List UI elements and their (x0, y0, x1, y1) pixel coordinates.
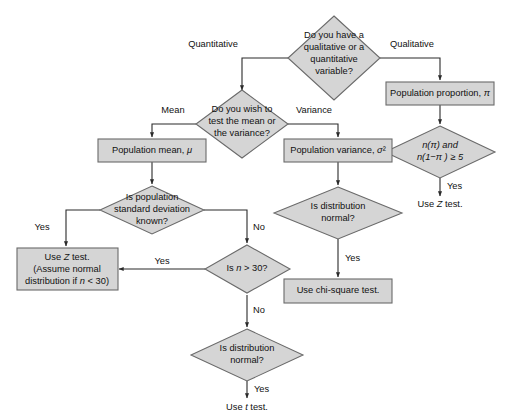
population-variance-label: Population variance, σ² (290, 145, 386, 155)
node-use-t-test[interactable]: Use t test. (226, 402, 268, 412)
dist-normal-variance-line-2: normal? (321, 213, 355, 223)
edge-start-to-proportion (380, 58, 440, 80)
edge-label-qualitative: Qualitative (390, 39, 434, 49)
start-decision-line-1: Do you have a (304, 30, 365, 40)
node-population-variance[interactable]: Population variance, σ² (284, 139, 392, 162)
node-sigma-known-decision[interactable]: Is population standard deviation known? (100, 186, 204, 234)
node-start-decision[interactable]: Do you have a qualitative or a quantitat… (288, 16, 380, 100)
node-distribution-normal-variance-decision[interactable]: Is distribution normal? (274, 187, 402, 239)
start-decision-line-3: quantitative (310, 54, 358, 64)
edge-label-quantitative: Quantitative (188, 39, 238, 49)
population-mean-label: Population mean, μ (112, 145, 192, 155)
edge-variance-branch (288, 124, 338, 137)
node-population-mean[interactable]: Population mean, μ (98, 139, 206, 162)
mean-variance-line-2: test the mean or (208, 116, 275, 126)
node-n-gt-30-decision[interactable]: Is n > 30? (205, 245, 290, 293)
use-z-test-proportion-label: Use Z test. (418, 199, 463, 209)
population-proportion-label: Population proportion, π (390, 88, 491, 98)
sigma-known-line-2: standard deviation (114, 204, 190, 214)
start-decision-line-4: variable? (315, 66, 353, 76)
dist-normal-variance-line-1: Is distribution (311, 201, 366, 211)
edge-sigma-known-yes (66, 210, 100, 246)
start-decision-line-2: qualitative or a (304, 42, 365, 52)
dist-normal-mean-line-2: normal? (230, 355, 264, 365)
edge-label-yes-dist-normal-variance: Yes (345, 253, 361, 263)
node-use-z-test-proportion[interactable]: Use Z test. (418, 199, 463, 209)
node-np-condition-decision[interactable]: n(π) and n(1−π ) ≥ 5 (385, 126, 495, 178)
use-z-test-mean-line-1: Use Z test. (45, 252, 90, 262)
n-gt-30-label: Is n > 30? (226, 263, 267, 273)
np-condition-line-1: n(π) and (422, 140, 459, 150)
edge-start-to-mean-variance (242, 58, 288, 90)
node-distribution-normal-mean-decision[interactable]: Is distribution normal? (191, 329, 303, 381)
sigma-known-line-3: known? (136, 216, 168, 226)
edge-label-no-sigma-known: No (253, 222, 265, 232)
edge-label-yes-sigma-known: Yes (34, 222, 50, 232)
node-use-chi-square-test[interactable]: Use chi-square test. (284, 279, 392, 303)
use-t-test-label: Use t test. (226, 402, 268, 412)
mean-variance-line-3: the variance? (214, 128, 270, 138)
node-population-proportion[interactable]: Population proportion, π (386, 82, 494, 105)
edge-sigma-known-no (204, 210, 247, 243)
flowchart-svg: Do you have a qualitative or a quantitat… (0, 0, 513, 420)
edge-label-no-n-gt-30: No (253, 305, 265, 315)
edge-label-yes-np-condition: Yes (447, 181, 463, 191)
node-use-z-test-mean[interactable]: Use Z test. (Assume normal distribution … (17, 248, 118, 290)
edge-mean-branch (152, 124, 196, 137)
node-mean-or-variance-decision[interactable]: Do you wish to test the mean or the vari… (196, 90, 288, 158)
edge-label-mean: Mean (161, 105, 184, 115)
edge-label-variance: Variance (296, 105, 332, 115)
edge-label-yes-n-gt-30: Yes (154, 256, 170, 266)
use-z-test-mean-line-3: distribution if n < 30) (25, 276, 109, 286)
edge-label-yes-dist-normal-mean: Yes (254, 384, 270, 394)
sigma-known-line-1: Is population (126, 192, 179, 202)
mean-variance-line-1: Do you wish to (212, 104, 273, 114)
flowchart-canvas: Do you have a qualitative or a quantitat… (0, 0, 513, 420)
np-condition-line-2: n(1−π ) ≥ 5 (417, 152, 464, 162)
dist-normal-mean-line-1: Is distribution (220, 343, 275, 353)
use-z-test-mean-line-2: (Assume normal (33, 264, 101, 274)
use-chi-square-test-label: Use chi-square test. (297, 285, 380, 295)
